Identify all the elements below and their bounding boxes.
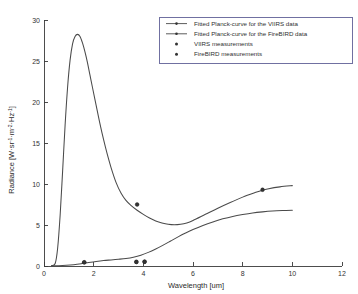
legend-point-sample-3	[175, 53, 178, 56]
y-axis-title-hz: Hz	[7, 113, 16, 122]
y-axis-title: Radiance [W·sr-1·m-2·Hz-1]	[7, 106, 16, 194]
y-axis-ticks: 051015202530	[32, 17, 48, 270]
y-tick-label-10: 10	[32, 181, 40, 188]
x-tick-label-2: 2	[92, 270, 96, 277]
legend-label-0: Fitted Planck-curve for the VIIRS data	[194, 20, 298, 27]
x-tick-label-10: 10	[288, 270, 296, 277]
y-tick-label-5: 5	[36, 222, 40, 229]
legend-line-marker-0	[175, 22, 178, 25]
y-tick-label-15: 15	[32, 140, 40, 147]
y-tick-label-0: 0	[36, 263, 40, 270]
chart-series	[51, 34, 292, 266]
measurement-point	[143, 260, 147, 264]
legend-label-3: FireBIRD measurements	[194, 50, 262, 57]
legend-line-marker-1	[175, 33, 178, 36]
x-tick-label-8: 8	[241, 270, 245, 277]
x-axis-ticks: 024681012	[42, 262, 346, 277]
y-axis-title-suffix: ]	[7, 106, 16, 108]
firebird-planck-curve	[51, 210, 292, 266]
measurement-point	[82, 260, 86, 264]
y-axis-title-prefix: Radiance [W	[7, 150, 16, 194]
y-tick-label-25: 25	[32, 58, 40, 65]
chart-legend[interactable]: Fitted Planck-curve for the VIIRS dataFi…	[159, 17, 352, 63]
measurement-point	[135, 203, 139, 207]
measurement-point	[134, 260, 138, 264]
y-tick-label-30: 30	[32, 17, 40, 24]
legend-label-2: VIIRS measurements	[194, 40, 253, 47]
x-tick-label-4: 4	[141, 270, 145, 277]
planck-curve-chart: 024681012 051015202530 Wavelength [um] R…	[0, 0, 358, 294]
x-tick-label-6: 6	[191, 270, 195, 277]
chart-figure: 024681012 051015202530 Wavelength [um] R…	[0, 0, 358, 294]
legend-point-sample-2	[175, 43, 178, 46]
legend-label-1: Fitted Planck-curve for the FireBIRD dat…	[194, 30, 308, 37]
x-tick-label-12: 12	[338, 270, 346, 277]
x-tick-label-0: 0	[42, 270, 46, 277]
x-axis-title: Wavelength [um]	[168, 281, 224, 290]
y-tick-label-20: 20	[32, 99, 40, 106]
measurement-point	[261, 188, 265, 192]
viirs-planck-curve	[51, 34, 292, 265]
svg-text:Radiance [W·sr-1·m-2·Hz-1]: Radiance [W·sr-1·m-2·Hz-1]	[7, 106, 16, 194]
